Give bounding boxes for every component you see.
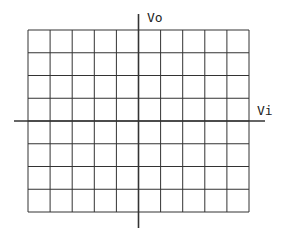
grid-graphic xyxy=(0,0,281,241)
x-axis-label: Vi xyxy=(257,104,273,117)
y-axis-label: Vo xyxy=(147,11,163,24)
oscilloscope-grid-diagram: Vo Vi xyxy=(0,0,281,241)
